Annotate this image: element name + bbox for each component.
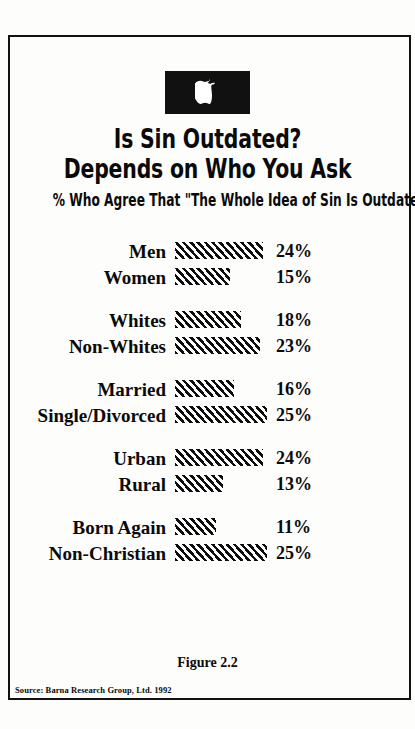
logo-badge	[165, 71, 250, 114]
bar	[175, 380, 234, 397]
figure-page: Is Sin Outdated? Depends on Who You Ask …	[0, 0, 415, 729]
bar-group-residence: Urban24%Rural13%	[0, 445, 415, 497]
row-value: 15%	[267, 268, 312, 286]
bar-track	[175, 471, 267, 497]
page-title-line-2: Depends on Who You Ask	[45, 154, 370, 184]
bar-track	[175, 402, 267, 428]
row-value: 24%	[267, 449, 312, 467]
page-title-line-1: Is Sin Outdated?	[45, 124, 370, 154]
chart-row: Non-Whites23%	[0, 333, 415, 359]
figure-caption: Figure 2.2	[0, 655, 415, 671]
row-label: Married	[0, 380, 175, 399]
page-subtitle: % Who Agree That "The Whole Idea of Sin …	[53, 191, 363, 210]
bitten-apple-icon	[195, 78, 221, 108]
row-label: Single/Divorced	[0, 406, 175, 425]
chart-row: Rural13%	[0, 471, 415, 497]
title-block: Is Sin Outdated? Depends on Who You Ask …	[14, 124, 401, 210]
bar-track	[175, 333, 267, 359]
bar-track	[175, 514, 267, 540]
row-value: 18%	[267, 311, 312, 329]
bar-group-ethnicity: Whites18%Non-Whites23%	[0, 307, 415, 359]
row-label: Non-Whites	[0, 337, 175, 356]
row-label: Women	[0, 268, 175, 287]
bar	[175, 475, 223, 492]
source-note: Source: Barna Research Group, Ltd. 1992	[15, 685, 172, 695]
bar-track	[175, 376, 267, 402]
bar-track	[175, 307, 267, 333]
chart-row: Women15%	[0, 264, 415, 290]
bar-group-gender: Men24%Women15%	[0, 238, 415, 290]
bar	[175, 242, 263, 259]
chart-row: Married16%	[0, 376, 415, 402]
bar	[175, 311, 241, 328]
bar	[175, 337, 260, 354]
chart-row: Whites18%	[0, 307, 415, 333]
row-value: 11%	[267, 518, 311, 536]
chart-row: Non-Christian25%	[0, 540, 415, 566]
row-label: Born Again	[0, 518, 175, 537]
row-value: 23%	[267, 337, 312, 355]
chart-row: Men24%	[0, 238, 415, 264]
bar-track	[175, 445, 267, 471]
bar-track	[175, 540, 267, 566]
bar-chart: Men24%Women15%Whites18%Non-Whites23%Marr…	[0, 238, 415, 566]
bar-group-faith: Born Again11%Non-Christian25%	[0, 514, 415, 566]
bar	[175, 268, 230, 285]
row-value: 13%	[267, 475, 312, 493]
row-label: Whites	[0, 311, 175, 330]
bar-track	[175, 238, 267, 264]
row-label: Rural	[0, 475, 175, 494]
chart-row: Urban24%	[0, 445, 415, 471]
row-value: 16%	[267, 380, 312, 398]
bar	[175, 544, 267, 561]
bar	[175, 449, 263, 466]
row-value: 25%	[267, 544, 312, 562]
logo-block	[0, 71, 415, 114]
bar	[175, 406, 267, 423]
row-label: Non-Christian	[0, 544, 175, 563]
row-label: Men	[0, 242, 175, 261]
chart-row: Born Again11%	[0, 514, 415, 540]
bar-group-marital-status: Married16%Single/Divorced25%	[0, 376, 415, 428]
row-value: 24%	[267, 242, 312, 260]
bar-track	[175, 264, 267, 290]
bar	[175, 518, 216, 535]
row-label: Urban	[0, 449, 175, 468]
chart-row: Single/Divorced25%	[0, 402, 415, 428]
row-value: 25%	[267, 406, 312, 424]
